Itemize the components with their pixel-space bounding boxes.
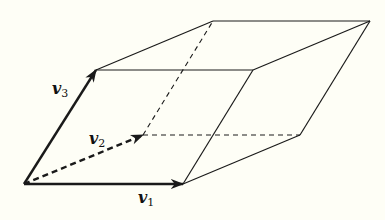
label-v2: v2 [89,131,105,149]
edge-v1v2-v1v2v3 [300,21,370,135]
edge-v1v3-v1v2v3 [253,21,370,70]
edge-v1-v1v2 [183,135,300,184]
edge-v2-v2v3 [143,21,213,135]
label-v3: v3 [52,81,68,99]
label-v1: v1 [138,190,154,208]
vector-v2-arrow [24,135,143,184]
label-v2-sub: 2 [98,137,105,150]
label-v3-base: v [52,79,61,98]
hidden-edges [143,21,300,135]
edge-v1-v1v3 [183,70,253,184]
parallelepiped-diagram: v3 v2 v1 [0,0,385,220]
edge-v3-v2v3 [96,21,213,70]
label-v1-base: v [138,188,147,207]
label-v2-base: v [89,129,98,148]
diagram-canvas [0,0,385,220]
label-v1-sub: 1 [147,196,154,209]
solid-edges [96,21,370,184]
label-v3-sub: 3 [61,87,68,100]
basis-vectors [24,70,183,184]
